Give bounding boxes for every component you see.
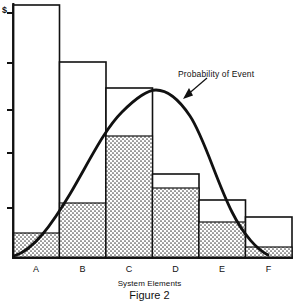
bar-shaded-E: [199, 222, 246, 258]
xtick-label-E: E: [199, 264, 245, 275]
bar-group-B: [60, 62, 107, 258]
annotation-arrow: [183, 78, 207, 99]
figure-container: $ Probability of Event A B C D E F Syste…: [0, 0, 299, 303]
y-axis-label: $: [2, 5, 7, 15]
bar-shaded-B: [60, 203, 107, 258]
arrow-head-icon: [183, 88, 193, 99]
bar-group-F: [246, 217, 293, 258]
xtick-label-B: B: [60, 264, 106, 275]
chart-canvas: [0, 0, 299, 303]
bar-group-D: [153, 174, 200, 258]
xtick-label-D: D: [153, 264, 199, 275]
bar-shaded-D: [153, 188, 200, 258]
xtick-label-A: A: [13, 264, 59, 275]
bar-group-C: [106, 88, 153, 258]
x-axis-title: System Elements: [0, 279, 299, 288]
bar-shaded-F: [246, 247, 293, 258]
xtick-label-C: C: [106, 264, 152, 275]
xtick-label-F: F: [246, 264, 292, 275]
bar-group-E: [199, 200, 246, 258]
bar-shaded-C: [106, 136, 153, 258]
figure-caption: Figure 2: [0, 289, 299, 301]
probability-annotation-label: Probability of Event: [178, 69, 254, 79]
